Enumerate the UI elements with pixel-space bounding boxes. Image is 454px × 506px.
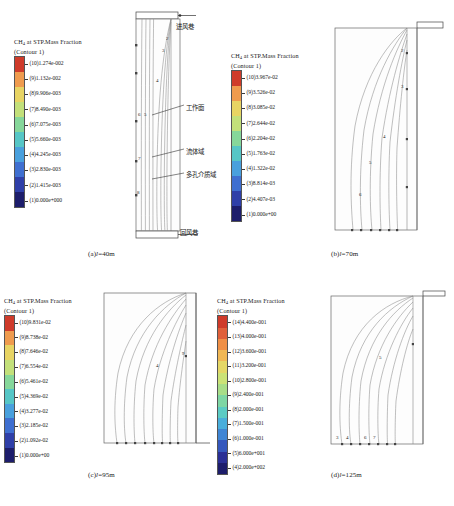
legend-contour-id: (Contour 1) [14,48,44,55]
caption-a: (a)l=40m [88,250,115,258]
legend-tick: (2)1.415e-003 [25,178,63,193]
colorbar-b [231,70,242,222]
legend-tick: (5)6.000e+001 [228,446,266,461]
contour-label: 9 [182,351,185,356]
contour-label: 2 [166,36,169,41]
caption-value: =40m [98,250,115,258]
contour-label: 5 [369,160,372,165]
legend-tick: (5)1.763e-02 [242,146,278,161]
legend-tick: (7)6.554e-02 [15,360,51,375]
legend-tick: (2)1.092e-02 [15,434,51,449]
legend-tick: (1)0.000e+000 [25,193,63,208]
legend-tick: (9)8.738e-02 [15,330,51,345]
legend-tick: (7)8.490e-003 [25,102,63,117]
legend-tick: (10)1.274e-002 [25,56,63,71]
contour-label: 3 [162,48,165,53]
contour-label: 5 [379,355,382,360]
legend-tick: (3)8.814e-03 [242,177,278,192]
caption-index: (a) [88,250,96,258]
legend-species: CH [231,52,240,59]
colorbar-c [4,315,15,463]
caption-value: =125m [342,471,362,479]
legend-tick: (4)4.245e-003 [25,147,63,162]
legend-title-rest: at STP.Mass Fraction [228,297,284,304]
legend-contour-id: (Contour 1) [231,62,261,69]
legend-species: CH [14,38,23,45]
legend-tick: (8)9.906e-003 [25,87,63,102]
legend-title-b: CH4 at STP.Mass Fraction (Contour 1) [231,52,339,69]
contour-label: 6 [359,192,362,197]
panel-b: CH4 at STP.Mass Fraction (Contour 1) (1)… [227,0,454,275]
plot-b: 2 3 4 5 6 [331,10,449,246]
contour-label: 8 [137,190,140,195]
legend-c: CH4 at STP.Mass Fraction (Contour 1) (1)… [4,297,112,463]
contour-label: 3 [336,435,339,440]
legend-tick: (4)1.322e-02 [242,161,278,176]
plot-c: 4 9 [100,289,220,461]
legend-tick: (8)2.000e-001 [228,402,266,417]
plot-d: 5 3 4 6 7 [327,285,451,465]
legend-d: CH4 at STP.Mass Fraction (Contour 1) (4)… [217,297,329,475]
legend-tick: (5)5.660e-003 [25,132,63,147]
legend-tick: (10)9.831e-02 [15,315,51,330]
colorbar-d [217,315,228,475]
contour-label: 5 [144,112,147,117]
legend-tick: (8)3.085e-02 [242,101,278,116]
legend-tick: (12)3.600e-001 [228,344,266,359]
legend-tick: (9)1.132e-002 [25,71,63,86]
contour-label: 6 [364,435,367,440]
legend-tick: (6)5.461e-02 [15,374,51,389]
legend-tick: (3)2.830e-003 [25,163,63,178]
caption-value: =95m [98,471,115,479]
legend-tick: (9)3.526e-02 [242,85,278,100]
caption-c: (c)l=95m [88,471,115,479]
annotation-intake: 进风巷 [176,22,194,31]
colorbar-a [14,56,25,208]
contour-label: 4 [156,363,159,368]
legend-tick: (7)2.644e-02 [242,116,278,131]
legend-tick: (10)3.967e-02 [242,70,278,85]
legend-species: CH [217,297,226,304]
contour-label: 4 [156,78,159,83]
contour-label: 6 [138,112,141,117]
annotation-return: 回风巷 [180,228,198,237]
legend-tick: (11)3.200e-001 [228,359,266,374]
legend-title-a: CH4 at STP.Mass Fraction (Contour 1) [14,38,126,55]
legend-tick: (9)2.400e-001 [228,388,266,403]
contour-label: 7 [138,156,141,161]
caption-value: =70m [342,250,359,258]
legend-species: CH [4,297,13,304]
legend-tick: (7)1.500e-001 [228,417,266,432]
legend-tick: (10)2.800e-001 [228,373,266,388]
legend-tick: (3)2.185e-02 [15,419,51,434]
legend-contour-id: (Contour 1) [4,307,34,314]
legend-tick: (6)1.000e-001 [228,432,266,447]
panel-a: CH4 at STP.Mass Fraction (Contour 1) (1)… [0,0,227,275]
annotation-leaders-a [150,95,196,185]
legend-tick: (8)7.646e-02 [15,345,51,360]
legend-tick: (6)7.075e-003 [25,117,63,132]
legend-tick: (2)4.407e-03 [242,192,278,207]
legend-title-rest: at STP.Mass Fraction [25,38,81,45]
contour-label: 4 [383,134,386,139]
caption-d: (d)l=125m [331,471,362,479]
caption-index: (c) [88,471,96,479]
legend-tick: (1)0.000e+00 [15,448,51,463]
legend-tick: (13)4.000e-001 [228,330,266,345]
legend-tick: (4)3.277e-02 [15,404,51,419]
legend-tick: (1)0.000e+00 [242,207,278,222]
legend-a: CH4 at STP.Mass Fraction (Contour 1) (1)… [14,38,126,208]
legend-ticks-a: (1)0.000e+000 (2)1.415e-003 (3)2.830e-00… [25,56,63,208]
contour-label: 4 [346,435,349,440]
legend-ticks-d: (4)2.000e+002 (5)6.000e+001 (6)1.000e-00… [228,315,266,475]
legend-tick: (5)4.369e-02 [15,389,51,404]
contour-label: 2 [401,48,404,53]
legend-tick: (14)4.400e-001 [228,315,266,330]
legend-b: CH4 at STP.Mass Fraction (Contour 1) (1)… [231,52,339,222]
legend-tick: (4)2.000e+002 [228,461,266,476]
legend-ticks-c: (1)0.000e+00 (2)1.092e-02 (3)2.185e-02 (… [15,315,51,463]
legend-title-c: CH4 at STP.Mass Fraction (Contour 1) [4,297,112,314]
legend-contour-id: (Contour 1) [217,307,247,314]
contour-label: 3 [401,84,404,89]
panel-d: CH4 at STP.Mass Fraction (Contour 1) (4)… [227,275,454,506]
